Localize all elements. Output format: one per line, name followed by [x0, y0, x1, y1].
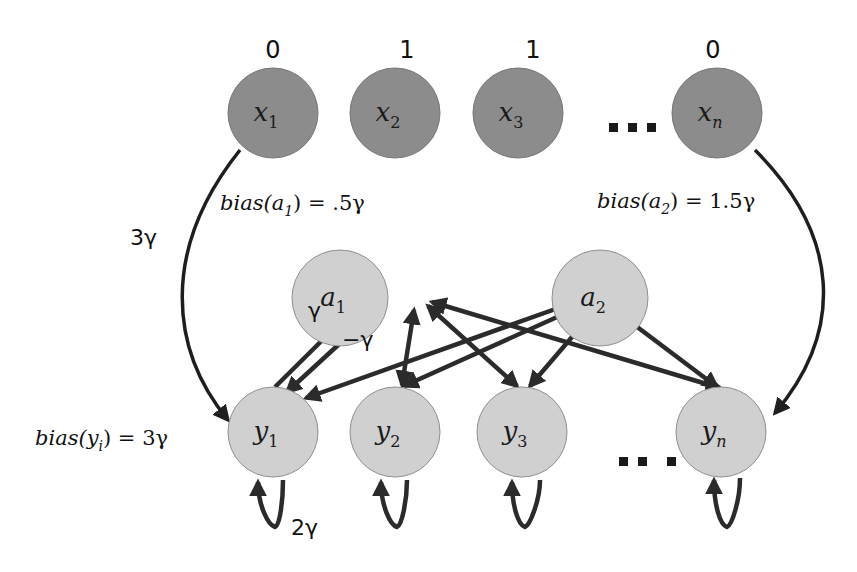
node-subscript: 3	[513, 113, 523, 132]
node-name: a	[580, 282, 596, 312]
node-name: x	[376, 97, 391, 127]
input-ellipsis	[609, 123, 656, 132]
output-node-y3: y3	[477, 387, 567, 477]
neural-network-diagram: 0 x1 1 x2 1 x3 0 xn bias(a1) = .5γ	[0, 0, 857, 572]
input-value-x3: 1	[525, 36, 540, 64]
node-name: y	[700, 416, 716, 446]
node-subscript: 1	[336, 298, 346, 317]
node-name: y	[502, 416, 518, 446]
auxiliary-layer: bias(a1) = .5γ a1 bias(a2) = 1.5γ a2	[220, 189, 755, 346]
node-name: x	[499, 97, 514, 127]
self-loop-y3	[512, 480, 540, 527]
bias-label-a1: bias(a1) = .5γ	[220, 191, 365, 219]
output-ellipsis	[619, 457, 676, 466]
input-node-x2: 1 x2	[350, 36, 440, 158]
node-name: y	[375, 416, 391, 446]
weight-label-self-loop: 2γ	[291, 515, 318, 540]
input-value-x1: 0	[265, 36, 280, 64]
self-loops	[258, 478, 740, 527]
node-subscript: 2	[390, 113, 400, 132]
weight-label-input-output: 3γ	[130, 225, 157, 250]
weight-label-y-to-a: γ	[308, 298, 321, 323]
weight-label-a-to-y: −γ	[342, 327, 373, 352]
edge-a1-y2	[402, 310, 414, 385]
edge-a1-y3	[428, 306, 517, 386]
node-subscript: 3	[517, 432, 527, 451]
bias-label-y: bias(yi) = 3γ	[35, 426, 168, 454]
node-subscript: 1	[268, 432, 278, 451]
input-node-xn: 0 xn	[672, 36, 762, 158]
self-loop-yn	[714, 478, 740, 527]
output-node-y2: y2	[350, 387, 440, 477]
node-name: x	[698, 97, 713, 127]
input-layer: 0 x1 1 x2 1 x3 0 xn	[228, 36, 762, 158]
bias-label-a2: bias(a2) = 1.5γ	[597, 189, 755, 217]
node-subscript: n	[712, 113, 722, 132]
node-subscript: n	[716, 432, 726, 451]
node-name: y	[253, 416, 269, 446]
input-node-x3: 1 x3	[473, 36, 563, 158]
node-subscript: 2	[390, 432, 400, 451]
output-node-yn: yn	[676, 387, 766, 477]
node-name: a	[320, 282, 336, 312]
aux-node-a2: a2	[552, 250, 648, 346]
node-name: x	[254, 97, 269, 127]
node-subscript: 2	[596, 298, 606, 317]
self-loop-y1	[258, 480, 283, 527]
self-loop-y2	[381, 480, 407, 527]
edge-xn-to-yn	[755, 150, 824, 413]
input-value-x2: 1	[399, 36, 414, 64]
input-node-x1: 0 x1	[228, 36, 318, 158]
aux-node-a1: a1	[292, 250, 388, 346]
output-node-y1: y1	[228, 387, 318, 477]
input-value-xn: 0	[705, 36, 720, 64]
node-subscript: 1	[268, 113, 278, 132]
output-layer: bias(yi) = 3γ y1 y2 y3 yn	[35, 387, 766, 477]
